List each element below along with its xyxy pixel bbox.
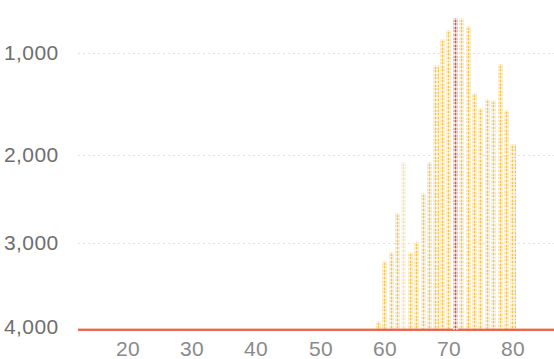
bar-x-73[interactable] [466,26,471,330]
y-tick-label-3000: 3,000 [4,231,59,255]
bar-x-68[interactable] [433,65,438,330]
x-axis-baseline [78,329,554,331]
x-tick-label-30: 30 [180,337,204,359]
y-tick-label-2000: 2,000 [4,143,59,167]
bar-x-70[interactable] [446,30,451,330]
bar-x-60[interactable] [382,261,387,330]
bar-x-72[interactable] [459,18,464,330]
x-tick-label-50: 50 [309,337,333,359]
x-tick-label-80: 80 [501,337,525,359]
bar-x-63[interactable] [401,162,406,330]
bar-x-64[interactable] [408,252,413,330]
bar-x-62[interactable] [395,213,400,330]
y-tick-label-1000: 1,000 [4,41,59,65]
x-tick-label-70: 70 [437,337,461,359]
x-tick-label-40: 40 [244,337,268,359]
x-tick-label-20: 20 [116,337,140,359]
bar-x-74[interactable] [472,93,477,330]
x-tick-label-60: 60 [373,337,397,359]
bar-x-79[interactable] [504,110,509,330]
y-tick-label-4000: 4,000 [4,315,59,339]
bar-x-67[interactable] [427,162,432,330]
bar-x-66[interactable] [421,193,426,330]
bar-x-69[interactable] [440,39,445,330]
bar-x-65[interactable] [414,242,419,330]
bar-x-61[interactable] [389,252,394,330]
chart-container: 1,000 2,000 3,000 4,000 20 30 40 50 60 7… [0,0,554,359]
bar-series [0,0,554,359]
bar-x-75[interactable] [478,108,483,330]
bar-x-80[interactable] [510,144,515,331]
bar-x-77[interactable] [491,100,496,330]
bar-x-76[interactable] [485,99,490,330]
plot-area: 1,000 2,000 3,000 4,000 20 30 40 50 60 7… [0,0,554,359]
bar-x-78[interactable] [498,64,503,330]
bar-x-71[interactable] [453,18,458,330]
